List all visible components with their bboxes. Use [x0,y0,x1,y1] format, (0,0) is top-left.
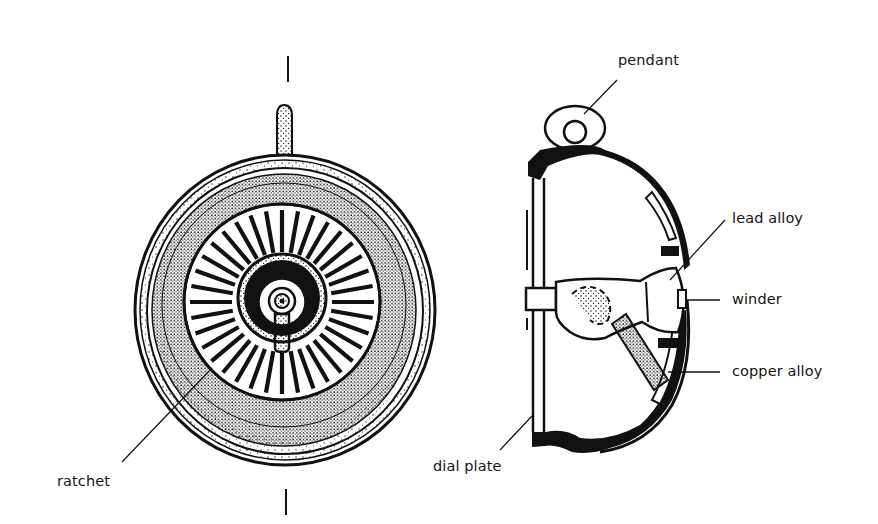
winder-knob [678,290,686,308]
label-copper-alloy: copper alloy [732,364,822,379]
cross-section-view [500,80,725,453]
watch-diagram: pendant lead alloy winder copper alloy d… [0,0,878,524]
label-pendant: pendant [618,53,679,68]
dial-plate-leader-line [500,416,532,450]
winder-arbor [526,288,556,310]
label-winder: winder [732,292,782,307]
arbor-arm [275,314,289,352]
front-view [122,56,435,515]
pendant-stem [277,105,292,156]
label-dial-plate: dial plate [433,459,501,474]
pendant-leader-line [584,80,617,114]
label-lead-alloy: lead alloy [732,211,803,226]
diagram-canvas [0,0,878,524]
label-ratchet: ratchet [57,474,110,489]
